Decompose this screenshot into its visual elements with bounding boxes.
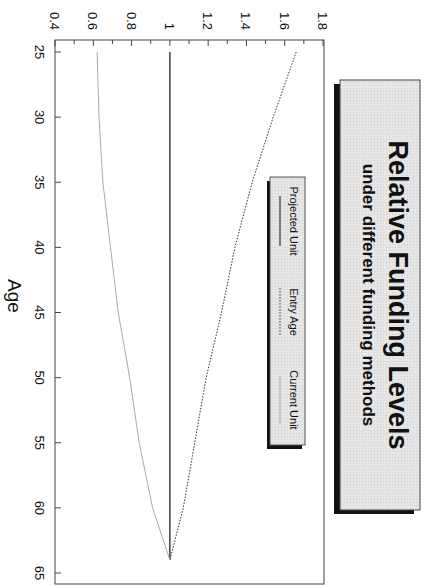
value-tick-label: 1.2: [200, 12, 215, 30]
value-tick-label: 0.4: [47, 12, 62, 30]
title-box: Relative Funding Levels under different …: [334, 80, 420, 514]
legend: Projected Unit Entry Age Current Unit: [267, 177, 305, 449]
chart-subtitle: under different funding methods: [359, 164, 378, 427]
value-tick-label: 1: [162, 23, 177, 30]
value-tick-label: 0.8: [124, 12, 139, 30]
value-axis: 0.40.60.811.21.41.61.8: [47, 12, 330, 46]
value-tick-label: 0.6: [85, 12, 100, 30]
age-tick-label: 35: [32, 175, 47, 189]
age-tick-label: 30: [32, 110, 47, 124]
chart-title: Relative Funding Levels: [383, 140, 413, 449]
age-tick-label: 25: [32, 45, 47, 59]
age-tick-label: 45: [32, 305, 47, 319]
value-tick-label: 1.6: [277, 12, 292, 30]
age-tick-label: 50: [32, 370, 47, 384]
age-axis: 253035404550556065: [32, 45, 61, 580]
age-tick-label: 40: [32, 240, 47, 254]
series-group: [97, 52, 296, 560]
age-tick-label: 65: [32, 566, 47, 580]
rotated-chart-stage: Relative funding compared to projected u…: [0, 0, 433, 586]
age-tick-label: 60: [32, 501, 47, 515]
value-tick-label: 1.8: [315, 12, 330, 30]
legend-label-entry-age: Entry Age: [288, 288, 300, 336]
legend-label-projected-unit: Projected Unit: [288, 186, 300, 255]
age-tick-label: 55: [32, 436, 47, 450]
funding-levels-chart: Relative funding compared to projected u…: [0, 0, 433, 586]
x-axis-label: Age: [4, 279, 25, 313]
legend-label-current-unit: Current Unit: [288, 370, 300, 429]
series-line-current-unit: [97, 52, 170, 560]
value-tick-label: 1.4: [238, 12, 253, 30]
